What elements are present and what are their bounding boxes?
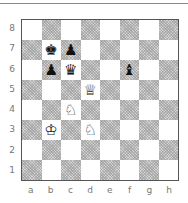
- square-c1: [61, 160, 81, 180]
- square-b5: [42, 80, 62, 100]
- rank-label-7: 7: [7, 43, 17, 53]
- file-label-d: d: [80, 185, 100, 195]
- square-g1: [139, 160, 159, 180]
- black-bishop-icon: ♝: [123, 63, 136, 78]
- square-e8: [100, 20, 120, 40]
- black-king-icon: ♚: [45, 43, 58, 58]
- square-f1: [120, 160, 140, 180]
- square-b7: ♚: [42, 40, 62, 60]
- square-g6: [139, 60, 159, 80]
- square-b1: [42, 160, 62, 180]
- rank-label-4: 4: [7, 104, 17, 114]
- square-c7: ♟: [61, 40, 81, 60]
- square-g2: [139, 140, 159, 160]
- square-c3: [61, 120, 81, 140]
- black-queen-icon: ♛: [64, 63, 77, 78]
- square-c8: [61, 20, 81, 40]
- square-f2: [120, 140, 140, 160]
- file-label-a: a: [21, 185, 41, 195]
- square-e5: [100, 80, 120, 100]
- chess-board: ♚♟♟♛♝♕♘♔♘: [21, 19, 179, 181]
- square-g5: [139, 80, 159, 100]
- square-d5: ♕: [81, 80, 101, 100]
- square-f6: ♝: [120, 60, 140, 80]
- white-queen-icon: ♕: [84, 83, 97, 98]
- square-c2: [61, 140, 81, 160]
- square-d8: [81, 20, 101, 40]
- square-f7: [120, 40, 140, 60]
- square-f3: [120, 120, 140, 140]
- square-b8: [42, 20, 62, 40]
- square-d2: [81, 140, 101, 160]
- square-a4: [22, 100, 42, 120]
- square-a5: [22, 80, 42, 100]
- file-label-c: c: [60, 185, 80, 195]
- top-rule: [0, 3, 188, 4]
- file-label-f: f: [120, 185, 140, 195]
- square-e6: [100, 60, 120, 80]
- square-e7: [100, 40, 120, 60]
- square-h5: [159, 80, 179, 100]
- square-g8: [139, 20, 159, 40]
- square-g7: [139, 40, 159, 60]
- square-f4: [120, 100, 140, 120]
- square-h4: [159, 100, 179, 120]
- file-label-h: h: [159, 185, 179, 195]
- square-b2: [42, 140, 62, 160]
- file-label-e: e: [100, 185, 120, 195]
- square-h6: [159, 60, 179, 80]
- rank-label-5: 5: [7, 84, 17, 94]
- square-e3: [100, 120, 120, 140]
- square-e4: [100, 100, 120, 120]
- square-g3: [139, 120, 159, 140]
- square-b6: ♟: [42, 60, 62, 80]
- square-a1: [22, 160, 42, 180]
- square-f8: [120, 20, 140, 40]
- rank-label-1: 1: [7, 165, 17, 175]
- square-a3: [22, 120, 42, 140]
- rank-label-2: 2: [7, 145, 17, 155]
- white-king-icon: ♔: [45, 123, 58, 138]
- square-b3: ♔: [42, 120, 62, 140]
- square-a8: [22, 20, 42, 40]
- square-d3: ♘: [81, 120, 101, 140]
- square-d6: [81, 60, 101, 80]
- square-h2: [159, 140, 179, 160]
- file-label-b: b: [41, 185, 61, 195]
- file-label-g: g: [139, 185, 159, 195]
- square-h3: [159, 120, 179, 140]
- square-d4: [81, 100, 101, 120]
- square-f5: [120, 80, 140, 100]
- square-g4: [139, 100, 159, 120]
- black-pawn-icon: ♟: [45, 63, 58, 78]
- square-b4: [42, 100, 62, 120]
- rank-label-8: 8: [7, 23, 17, 33]
- square-h1: [159, 160, 179, 180]
- square-h7: [159, 40, 179, 60]
- black-pawn-icon: ♟: [64, 43, 77, 58]
- square-c6: ♛: [61, 60, 81, 80]
- rank-label-6: 6: [7, 64, 17, 74]
- square-e2: [100, 140, 120, 160]
- square-a6: [22, 60, 42, 80]
- square-a2: [22, 140, 42, 160]
- square-e1: [100, 160, 120, 180]
- square-c5: [61, 80, 81, 100]
- square-d1: [81, 160, 101, 180]
- square-c4: ♘: [61, 100, 81, 120]
- square-h8: [159, 20, 179, 40]
- square-d7: [81, 40, 101, 60]
- square-a7: [22, 40, 42, 60]
- rank-label-3: 3: [7, 124, 17, 134]
- white-knight-icon: ♘: [64, 103, 77, 118]
- white-knight-icon: ♘: [84, 123, 97, 138]
